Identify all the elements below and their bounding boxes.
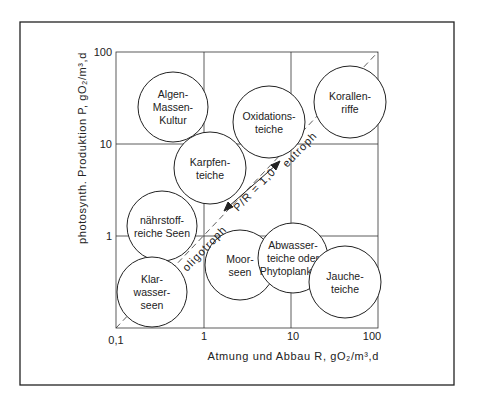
ecosystem-label-line: Massen-	[153, 101, 194, 113]
ecosystem-label-line: Karpfen-	[190, 156, 231, 168]
ecosystem-label-line: wasser-	[133, 286, 171, 298]
ecosystem-pr-diagram: Algen-Massen-KulturOxidations-teicheKora…	[0, 0, 484, 396]
ecosystem-label-line: Moor-	[226, 253, 254, 265]
x-axis-title: Atmung und Abbau R, gO₂/m³,d	[208, 350, 380, 362]
ecosystem-korallen: Korallen-riffe	[314, 66, 386, 138]
y-tick-10: 10	[100, 138, 112, 150]
ecosystem-label-line: Oxidations-	[242, 110, 296, 122]
ecosystem-label-line: Klar-	[141, 273, 164, 285]
ecosystem-klar: Klar-wasser-seen	[117, 257, 187, 327]
y-tick-labels: 100 10 1	[94, 46, 112, 242]
x-tick-100: 100	[363, 330, 381, 342]
ecosystem-label-line: seen	[229, 266, 252, 278]
x-tick-0-1: 0,1	[108, 334, 123, 346]
ecosystem-karpfen: Karpfen-teiche	[174, 132, 246, 204]
ecosystem-algen: Algen-Massen-Kultur	[138, 72, 208, 142]
ecosystem-label-line: reiche Seen	[134, 227, 190, 239]
ecosystem-label-line: seen	[141, 299, 164, 311]
ecosystem-label-line: teiche	[196, 169, 224, 181]
x-tick-1: 1	[201, 330, 207, 342]
y-axis-title: photosynth. Produktion P, gO₂/m³,d	[76, 52, 88, 244]
x-tick-10: 10	[287, 330, 299, 342]
ecosystem-label-line: Jauche-	[326, 270, 364, 282]
ecosystem-label-line: riffe	[341, 103, 358, 115]
ecosystem-label-line: nährstoff-	[140, 214, 185, 226]
ecosystem-naehrstoff: nährstoff-reiche Seen	[127, 191, 197, 261]
ecosystem-label-line: teiche oder	[267, 252, 319, 264]
x-tick-labels: 0,1 1 10 100	[108, 330, 381, 346]
ecosystem-label-line: teiche	[255, 123, 283, 135]
y-tick-100: 100	[94, 46, 112, 58]
ecosystem-label-line: Korallen-	[329, 90, 372, 102]
ecosystem-label-line: Kultur	[159, 114, 187, 126]
ecosystem-jauche: Jauche-teiche	[309, 246, 381, 318]
ecosystem-label-line: Algen-	[158, 88, 189, 100]
y-tick-1: 1	[106, 230, 112, 242]
ecosystem-label-line: teiche	[331, 283, 359, 295]
ecosystem-label-line: Abwasser-	[268, 239, 318, 251]
